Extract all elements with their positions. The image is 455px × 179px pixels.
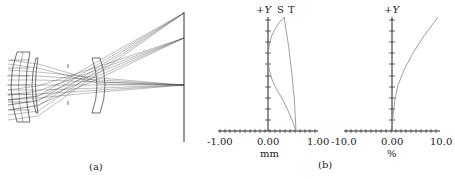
ray-bundles [8, 13, 184, 120]
astig-x-tick-min: -1.00 [207, 137, 233, 147]
lens-element-3 [92, 58, 105, 113]
lens-element-2 [32, 58, 38, 113]
astig-legend-t: T [288, 5, 295, 15]
astig-x-unit: mm [260, 149, 279, 159]
dist-x-tick-min: -10.0 [331, 137, 357, 147]
dist-x-tick-max: 10.0 [430, 137, 452, 147]
astig-y-label: +Y [256, 5, 271, 15]
astig-x-tick-max: 1.00 [307, 137, 329, 147]
astig-legend-s: S [277, 5, 284, 15]
dist-x-unit: % [387, 149, 397, 159]
caption-b: (b) [318, 160, 332, 170]
dist-x-tick-zero: 0.00 [381, 137, 403, 147]
tangential-curve [284, 17, 296, 131]
distortion-curve [392, 17, 438, 131]
astigmatism-plot [218, 17, 318, 133]
astig-x-tick-zero: 0.00 [257, 137, 279, 147]
caption-a: (a) [89, 162, 103, 172]
distortion-plot [344, 17, 440, 133]
dist-y-label: +Y [384, 5, 399, 15]
